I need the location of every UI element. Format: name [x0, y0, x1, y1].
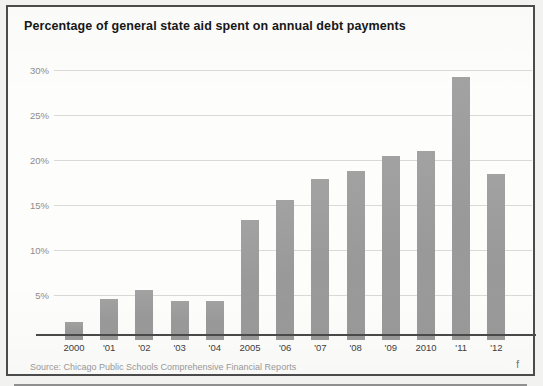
x-axis-tick-label: '01	[103, 342, 115, 353]
bar	[487, 174, 505, 341]
y-axis-tick-label: 20%	[30, 155, 49, 166]
x-axis-tick-label: '02	[138, 342, 150, 353]
bar	[276, 200, 294, 340]
y-axis-tick-label: 30%	[30, 65, 49, 76]
scanned-page: Percentage of general state aid spent on…	[0, 0, 543, 386]
gridline	[54, 70, 532, 71]
y-axis-tick-label: 10%	[30, 245, 49, 256]
bar	[417, 151, 435, 340]
x-axis-line	[36, 334, 536, 336]
bar	[311, 179, 329, 340]
x-axis-tick-label: '04	[209, 342, 221, 353]
x-axis-tick-label: 2010	[415, 342, 436, 353]
x-axis-tick-label: '08	[349, 342, 361, 353]
bar	[452, 77, 470, 340]
bar	[347, 171, 365, 340]
x-axis-tick-label: '06	[279, 342, 291, 353]
page-title: Percentage of general state aid spent on…	[24, 19, 406, 33]
x-axis-tick-label: 2000	[63, 342, 84, 353]
chart-card: Percentage of general state aid spent on…	[6, 5, 535, 376]
chart-plot-area: 5%10%15%20%25%30%	[54, 62, 532, 340]
x-axis-tick-label: '11	[455, 342, 467, 353]
x-axis-tick-label: '07	[314, 342, 326, 353]
page-mark: f	[516, 359, 519, 370]
bar	[382, 156, 400, 340]
y-axis-tick-label: 25%	[30, 110, 49, 121]
bar	[65, 322, 83, 340]
x-axis-tick-label: '12	[490, 342, 502, 353]
y-axis-tick-label: 15%	[30, 200, 49, 211]
x-axis-tick-label: '09	[385, 342, 397, 353]
x-axis-tick-label: '03	[173, 342, 185, 353]
bar	[135, 290, 153, 340]
y-axis-tick-label: 5%	[35, 290, 49, 301]
bar	[241, 220, 259, 340]
x-axis-tick-label: 2005	[239, 342, 260, 353]
source-note: Source: Chicago Public Schools Comprehen…	[30, 362, 296, 372]
